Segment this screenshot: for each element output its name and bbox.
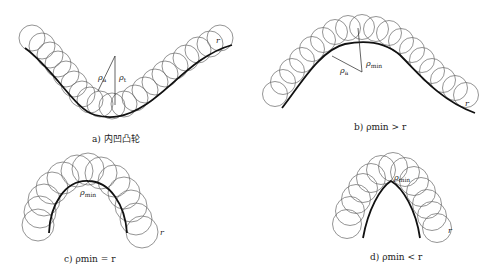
r-label-a: r — [216, 36, 221, 45]
roller-circle — [342, 185, 371, 214]
roller-circle — [207, 25, 233, 51]
rho-a-label-b: ρa — [339, 66, 349, 76]
rho-a-label-a: ρa — [97, 73, 107, 83]
r-label-d: r — [448, 226, 453, 235]
roller-circle — [36, 172, 68, 204]
roller-circle — [413, 190, 442, 219]
roller-circle — [28, 184, 60, 216]
roller-circle — [407, 178, 436, 207]
roller-circle — [336, 16, 361, 41]
caption-d: d) ρmin < r — [370, 252, 422, 262]
roller-circle — [311, 28, 336, 53]
roller-circle — [443, 76, 468, 101]
roller-circle — [280, 59, 305, 84]
roller-circle — [98, 165, 130, 197]
caption-b: b) ρmin > r — [354, 122, 406, 132]
panel-c: ρmin r — [22, 153, 165, 248]
roller-circles-d — [333, 153, 452, 243]
panel-d: ρmin r — [333, 153, 454, 243]
caption-c: c) ρmin = r — [64, 254, 115, 264]
roller-circle — [263, 82, 288, 107]
roller-circle — [349, 174, 378, 203]
rho-min-label-b: ρmin — [365, 59, 382, 69]
roller-circle — [37, 42, 63, 68]
rho-t-label-a: ρt — [118, 73, 127, 83]
cam-profile-a — [25, 45, 232, 117]
r-label-c: r — [160, 228, 165, 237]
cam-profile-d — [363, 181, 420, 238]
roller-circle — [377, 21, 402, 46]
panel-b: ρa ρmin r — [263, 15, 479, 114]
roller-circle — [418, 202, 447, 231]
roller-circle — [350, 15, 375, 40]
roller-circle — [357, 164, 386, 193]
roller-circles-c — [22, 153, 158, 248]
cam-profile-b — [282, 42, 475, 113]
roller-circle — [323, 20, 348, 45]
rho-min-line-b — [358, 28, 362, 72]
roller-circle — [173, 45, 199, 71]
rho-min-label-c: ρmin — [79, 188, 96, 198]
cam-roller-diagram: ρa ρt r ρa ρmin r ρmin r ρmin r — [0, 0, 485, 275]
roller-circle — [271, 70, 296, 95]
panel-a: ρa ρt r — [19, 25, 233, 119]
caption-a: a) 内凹凸轮 — [92, 132, 140, 145]
roller-circle — [364, 17, 389, 42]
rho-min-label-d: ρmin — [393, 173, 410, 183]
roller-circle — [126, 216, 158, 248]
r-label-b: r — [465, 99, 470, 108]
